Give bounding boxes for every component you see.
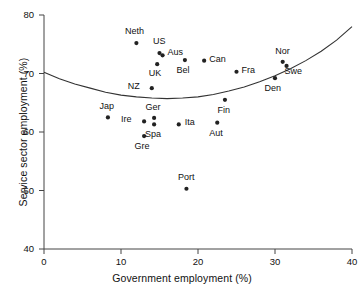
- data-point-label: Ger: [146, 102, 161, 112]
- data-point-label: Aus: [168, 47, 184, 57]
- data-point-marker: [106, 115, 110, 119]
- axes-group: [39, 15, 352, 254]
- data-point-label: Nor: [275, 46, 290, 56]
- data-point-marker: [234, 70, 238, 74]
- y-axis-title: Service sector employment (%): [17, 27, 29, 237]
- data-point-marker: [184, 187, 188, 191]
- data-point-label: Spa: [145, 129, 161, 139]
- x-axis-ticks: [44, 249, 352, 254]
- data-point-marker: [223, 98, 227, 102]
- x-tick-label: 30: [260, 256, 290, 267]
- data-point-label: Jap: [99, 101, 114, 111]
- data-point-marker: [183, 58, 187, 62]
- data-point-label: Fin: [217, 105, 230, 115]
- data-point-label: Ita: [185, 117, 195, 127]
- data-point-marker: [273, 76, 277, 80]
- data-point-label: Aut: [209, 128, 223, 138]
- data-point-marker: [202, 59, 206, 63]
- x-tick-label: 0: [29, 256, 59, 267]
- y-tick-label: 80: [10, 9, 34, 20]
- data-point-label: Neth: [125, 26, 144, 36]
- fitted-curve: [44, 27, 352, 99]
- data-point-label: Den: [265, 83, 282, 93]
- data-point-label: Bel: [176, 65, 189, 75]
- data-point-markers: [106, 41, 289, 191]
- data-point-marker: [281, 60, 285, 64]
- data-point-marker: [152, 122, 156, 126]
- data-point-marker: [155, 62, 159, 66]
- y-tick-label: 40: [10, 243, 34, 254]
- data-point-marker: [150, 86, 154, 90]
- data-point-marker: [160, 53, 164, 57]
- data-point-label: Swe: [285, 66, 303, 76]
- data-point-label: UK: [149, 68, 162, 78]
- data-point-marker: [215, 121, 219, 125]
- data-point-label: US: [153, 36, 166, 46]
- data-point-label: Port: [178, 172, 195, 182]
- x-tick-label: 40: [337, 256, 364, 267]
- data-point-label: Fra: [242, 65, 256, 75]
- data-point-marker: [152, 116, 156, 120]
- y-axis-ticks: [39, 15, 44, 249]
- x-tick-label: 20: [183, 256, 213, 267]
- data-point-label: Gre: [135, 141, 150, 151]
- data-point-marker: [142, 119, 146, 123]
- x-tick-label: 10: [106, 256, 136, 267]
- x-axis-title: Government employment (%): [0, 272, 364, 284]
- plot-canvas: [0, 0, 364, 292]
- data-point-label: Can: [209, 54, 226, 64]
- data-point-label: Ire: [121, 114, 132, 124]
- data-point-marker: [134, 41, 138, 45]
- data-point-label: NZ: [128, 81, 140, 91]
- scatter-plot-figure: 4050607080010203040 NethUSAusUKBelCanFra…: [0, 0, 364, 292]
- data-point-marker: [177, 122, 181, 126]
